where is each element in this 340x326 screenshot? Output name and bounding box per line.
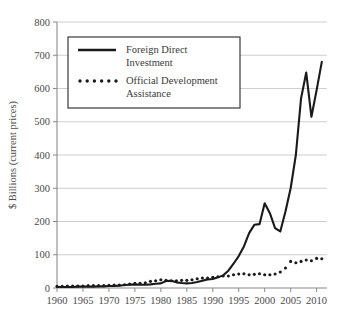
data-point-1 <box>118 283 121 286</box>
y-tick-label: 800 <box>34 17 50 28</box>
x-tick-label: 1995 <box>228 295 249 306</box>
data-point-1 <box>123 283 126 286</box>
data-point-1 <box>185 279 188 282</box>
data-point-1 <box>201 276 204 279</box>
x-tick-label: 1985 <box>176 295 197 306</box>
data-point-1 <box>175 279 178 282</box>
legend-swatch-dotted <box>107 79 110 82</box>
legend-swatch-dotted <box>86 79 89 82</box>
data-point-1 <box>164 279 167 282</box>
data-point-1 <box>159 278 162 281</box>
data-point-1 <box>71 284 74 287</box>
data-point-1 <box>248 273 251 276</box>
data-point-1 <box>128 282 131 285</box>
data-point-1 <box>92 284 95 287</box>
data-point-1 <box>144 281 147 284</box>
legend-swatch-dotted <box>114 79 117 82</box>
data-point-1 <box>315 257 318 260</box>
data-point-1 <box>190 278 193 281</box>
y-axis-tick-labels: 0100200300400500600700800 <box>34 17 50 294</box>
legend-label-line1: Foreign Direct <box>126 44 188 55</box>
legend-swatch-dotted <box>93 79 96 82</box>
data-point-1 <box>180 279 183 282</box>
data-point-1 <box>102 284 105 287</box>
data-point-1 <box>133 282 136 285</box>
data-point-1 <box>289 260 292 263</box>
chart-container: 0100200300400500600700800 19601965197019… <box>0 0 340 326</box>
legend-label-line2: Assistance <box>126 88 171 99</box>
data-point-1 <box>139 282 142 285</box>
data-point-1 <box>222 274 225 277</box>
line-chart: 0100200300400500600700800 19601965197019… <box>0 0 340 326</box>
data-point-1 <box>170 279 173 282</box>
x-tick-label: 1975 <box>124 295 145 306</box>
data-point-1 <box>55 285 58 288</box>
data-point-1 <box>149 280 152 283</box>
y-tick-label: 400 <box>34 150 50 161</box>
data-point-1 <box>76 284 79 287</box>
data-point-1 <box>107 284 110 287</box>
x-axis-tick-labels: 1960196519701975198019851990199520002005… <box>47 295 328 306</box>
data-point-1 <box>284 267 287 270</box>
data-point-1 <box>310 259 313 262</box>
data-point-1 <box>294 261 297 264</box>
data-point-1 <box>274 272 277 275</box>
x-tick-label: 1965 <box>72 295 93 306</box>
data-point-1 <box>279 270 282 273</box>
data-point-1 <box>61 285 64 288</box>
y-tick-label: 100 <box>34 249 50 260</box>
data-point-1 <box>113 283 116 286</box>
x-tick-label: 1990 <box>202 295 223 306</box>
legend-label-line1: Official Development <box>126 75 218 86</box>
data-point-1 <box>299 260 302 263</box>
data-point-1 <box>232 273 235 276</box>
x-tick-label: 1980 <box>150 295 171 306</box>
data-point-1 <box>268 273 271 276</box>
data-point-1 <box>258 272 261 275</box>
legend-swatch-dotted <box>100 79 103 82</box>
y-tick-label: 700 <box>34 50 50 61</box>
data-point-1 <box>242 272 245 275</box>
y-tick-label: 0 <box>45 283 50 294</box>
data-point-1 <box>211 276 214 279</box>
x-tick-label: 2005 <box>280 295 301 306</box>
x-tick-label: 2010 <box>306 295 327 306</box>
data-point-1 <box>81 284 84 287</box>
data-point-1 <box>237 272 240 275</box>
data-point-1 <box>66 284 69 287</box>
data-point-1 <box>154 279 157 282</box>
data-point-1 <box>263 273 266 276</box>
y-tick-label: 500 <box>34 116 50 127</box>
data-point-1 <box>227 274 230 277</box>
y-tick-label: 200 <box>34 216 50 227</box>
y-tick-label: 300 <box>34 183 50 194</box>
x-tick-label: 2000 <box>254 295 275 306</box>
legend-swatch-dotted <box>78 79 81 82</box>
data-point-1 <box>305 259 308 262</box>
y-tick-label: 600 <box>34 83 50 94</box>
data-point-1 <box>216 275 219 278</box>
data-point-1 <box>206 276 209 279</box>
data-point-1 <box>196 277 199 280</box>
data-point-1 <box>87 284 90 287</box>
data-point-1 <box>320 257 323 260</box>
x-tick-label: 1970 <box>98 295 119 306</box>
data-point-1 <box>97 284 100 287</box>
y-axis-title: $ Billions (current prices) <box>7 100 19 209</box>
data-point-1 <box>253 273 256 276</box>
x-tick-label: 1960 <box>47 295 68 306</box>
chart-legend: Foreign DirectInvestmentOfficial Develop… <box>68 37 240 108</box>
legend-label-line2: Investment <box>126 57 173 68</box>
